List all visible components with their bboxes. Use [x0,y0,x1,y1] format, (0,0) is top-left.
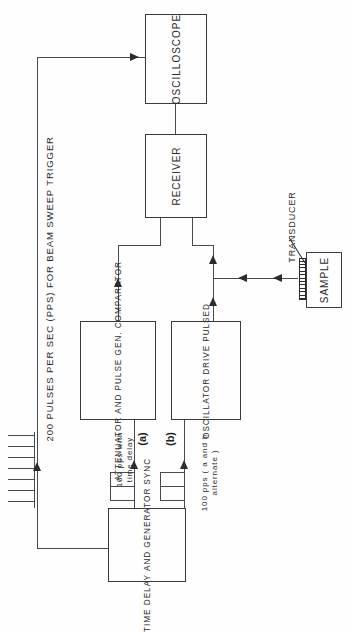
pulse-train-symbol-b [160,470,185,508]
block-oscilloscope[interactable]: OSCILLOSCOPE [145,14,207,104]
feedback-line-vertical [37,57,38,549]
arrow-echo-return-1 [238,274,247,282]
block-comparator-pulse-gen-attenuator[interactable]: COMPARATOR PULSE GEN. AND ATTENUATOR [80,321,156,420]
comparator-line-2: PULSE GEN. [114,331,123,390]
sync-generator-line-4: TIME DELAY [143,574,152,632]
receiver-leg-left-stub [160,218,161,246]
feedback-line-top [37,57,145,58]
signal-a-tag: (a) [136,432,148,445]
sample-label: SAMPLE [319,257,330,304]
arrow-into-receiver-from-drive [209,255,217,264]
transducer-element [299,258,306,300]
feedback-arrow-trigger [33,462,41,471]
comparator-line-3: AND [114,393,123,413]
arrow-echo-return-2 [273,274,282,282]
signal-b-tag: (b) [164,432,176,446]
feedback-arrow-into-oscilloscope [130,53,139,61]
signal-b-desc-line-2: alternate ) [210,425,219,520]
pulsed-drive-line-1: PULSED [202,303,211,342]
sync-generator-line-3: AND [143,551,152,571]
pulsed-drive-line-2: DRIVE [202,344,211,374]
figure-title: 200 PULSES PER SEC (PPS) FOR BEAM SWEEP … [44,142,55,442]
comparator-line-1: COMPARATOR [114,261,123,328]
oscilloscope-label: OSCILLOSCOPE [171,14,182,104]
sync-generator-line-1: SYNC [143,458,152,485]
receiver-bus-right [192,245,214,246]
receiver-label: RECEIVER [171,146,182,205]
block-sync-generator-time-delay[interactable]: SYNC GENERATOR AND TIME DELAY [108,508,186,582]
link-oscilloscope-receiver [175,104,176,134]
block-receiver[interactable]: RECEIVER [145,134,207,218]
receiver-leg-right-stub [192,218,193,246]
signal-a-desc-line-1: 100 pps with [115,420,124,500]
signal-b-arrow [180,460,188,469]
receiver-bus-left [118,245,161,246]
line-junction-to-transducer [213,278,298,279]
signal-a-desc-line-2: time delay [125,420,134,500]
transducer-label: TRANSDUCER [287,167,297,287]
block-pulsed-drive-oscillator[interactable]: PULSED DRIVE OSCILLATOR [171,321,241,420]
signal-b-desc-line-1: 100 pps ( a and b [200,425,209,520]
block-sample[interactable]: SAMPLE [306,252,342,308]
sync-generator-line-2: GENERATOR [143,488,152,548]
